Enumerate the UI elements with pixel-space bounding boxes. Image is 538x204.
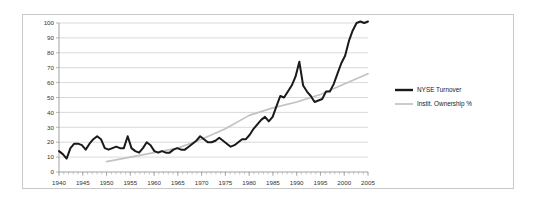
x-tick-label: 1950 bbox=[100, 179, 114, 186]
chart-outer-frame: 0102030405060708090100 19401945195019551… bbox=[22, 14, 514, 189]
x-tick-label: 1965 bbox=[171, 179, 185, 186]
y-tick-label: 70 bbox=[47, 64, 54, 71]
y-axis-tick-labels: 0102030405060708090100 bbox=[44, 19, 55, 175]
x-tick-label: 1960 bbox=[147, 179, 161, 186]
y-tick-label: 60 bbox=[47, 79, 54, 86]
x-tick-label: 1980 bbox=[242, 179, 256, 186]
series-line-nyse-turnover bbox=[59, 22, 368, 159]
line-chart: 0102030405060708090100 19401945195019551… bbox=[23, 15, 513, 188]
y-tick-label: 90 bbox=[47, 34, 54, 41]
x-tick-label: 2005 bbox=[361, 179, 375, 186]
x-tick-label: 1995 bbox=[314, 179, 328, 186]
x-tick-label: 1975 bbox=[219, 179, 233, 186]
y-tick-label: 20 bbox=[47, 138, 54, 145]
legend-label: NYSE Turnover bbox=[417, 86, 462, 93]
y-tick-label: 0 bbox=[51, 168, 55, 175]
legend-label: Instit. Ownership % bbox=[417, 100, 472, 108]
x-tick-label: 1945 bbox=[76, 179, 90, 186]
series-line-instit-ownership bbox=[107, 74, 368, 162]
chart-legend: NYSE TurnoverInstit. Ownership % bbox=[395, 86, 472, 108]
y-tick-label: 50 bbox=[47, 94, 54, 101]
x-tick-label: 1990 bbox=[290, 179, 304, 186]
gridlines-group bbox=[59, 23, 368, 157]
x-tick-label: 2000 bbox=[337, 179, 351, 186]
chart-figure: 0102030405060708090100 19401945195019551… bbox=[0, 0, 538, 204]
x-axis-tick-labels: 1940194519501955196019651970197519801985… bbox=[52, 179, 375, 186]
x-tick-label: 1970 bbox=[195, 179, 209, 186]
y-tick-label: 40 bbox=[47, 109, 54, 116]
x-tickmarks-group bbox=[59, 172, 368, 176]
y-tick-label: 10 bbox=[47, 153, 54, 160]
y-tick-label: 100 bbox=[44, 19, 55, 26]
x-tick-label: 1985 bbox=[266, 179, 280, 186]
x-tick-label: 1940 bbox=[52, 179, 66, 186]
x-tick-label: 1955 bbox=[123, 179, 137, 186]
y-tickmarks-group bbox=[56, 23, 59, 172]
y-tick-label: 30 bbox=[47, 124, 54, 131]
y-tick-label: 80 bbox=[47, 49, 54, 56]
